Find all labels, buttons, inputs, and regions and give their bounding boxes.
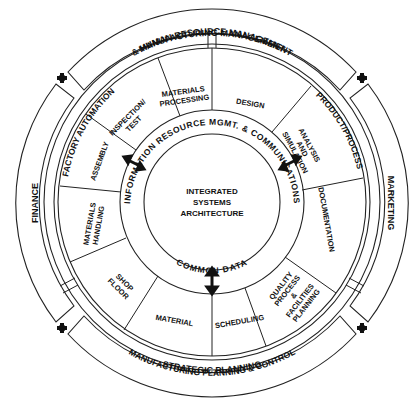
common-data-label: COMMON DATA [175,257,249,276]
svg-text:ASSEMBLY: ASSEMBLY [88,140,110,182]
wedge-shop-floor[interactable]: SHOP FLOOR [106,270,138,302]
wedge-materials-handling[interactable]: MATERIALS HANDLING [81,202,106,248]
architecture-wheel: MANUFACTURING MANAGEMENT & HUMAN RESOURC… [0,0,420,417]
wedge-assembly[interactable]: ASSEMBLY [88,140,110,182]
svg-text:DESIGN: DESIGN [235,97,265,111]
svg-text:SCHEDULING: SCHEDULING [214,313,265,331]
cross-connector-icon [57,323,67,333]
finance-label: FINANCE [30,183,40,223]
cross-connector-icon [357,73,367,83]
cross-connector-icon [357,323,367,333]
svg-text:DOCUMENTATION: DOCUMENTATION [316,187,336,253]
wedge-documentation[interactable]: DOCUMENTATION [316,187,336,253]
wedge-material[interactable]: MATERIAL [155,313,195,329]
marketing-label: MARKETING [386,176,396,231]
core-label: INTEGRATED SYSTEMS ARCHITECTURE [180,187,244,218]
svg-text:SYSTEMS: SYSTEMS [193,198,232,207]
wedge-quality-process[interactable]: QUALITY PROCESS & FACILITIES PLANNING [265,267,322,324]
svg-text:ARCHITECTURE: ARCHITECTURE [180,209,244,218]
wedge-materials-processing[interactable]: MATERIALS PROCESSING [158,84,210,109]
svg-text:MATERIAL: MATERIAL [155,313,195,329]
wedge-design[interactable]: DESIGN [235,97,265,111]
wedge-scheduling[interactable]: SCHEDULING [214,313,265,331]
svg-text:INTEGRATED: INTEGRATED [186,187,238,196]
cross-connector-icon [57,73,67,83]
